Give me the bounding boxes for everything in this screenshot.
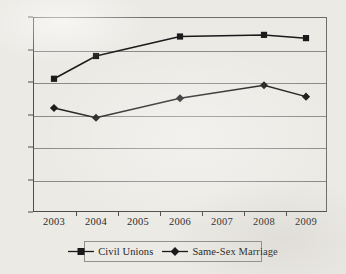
data-point-diamond (176, 94, 184, 102)
diamond-marker-icon (162, 246, 188, 257)
line-chart-figure: 0102030405060 20032004200520062007200820… (0, 0, 346, 274)
data-point-square (51, 76, 57, 82)
series-same-sex-marriage (50, 81, 310, 122)
data-point-diamond (92, 114, 100, 122)
series-civil-unions (51, 32, 309, 82)
data-point-square (303, 35, 309, 41)
square-marker-icon (68, 246, 94, 257)
data-point-square (177, 33, 183, 39)
data-point-diamond (260, 81, 268, 89)
series-line (54, 35, 306, 79)
legend-entry-same-sex-marriage: Same-Sex Marriage (162, 246, 277, 257)
series-layer (0, 0, 346, 274)
data-point-diamond (50, 104, 58, 112)
data-point-diamond (302, 93, 310, 101)
legend-label-same-sex-marriage: Same-Sex Marriage (192, 246, 277, 257)
chart-legend: Civil Unions Same-Sex Marriage (84, 241, 262, 262)
legend-label-civil-unions: Civil Unions (98, 246, 153, 257)
data-point-square (261, 32, 267, 38)
legend-entry-civil-unions: Civil Unions (68, 246, 153, 257)
data-point-square (93, 53, 99, 59)
